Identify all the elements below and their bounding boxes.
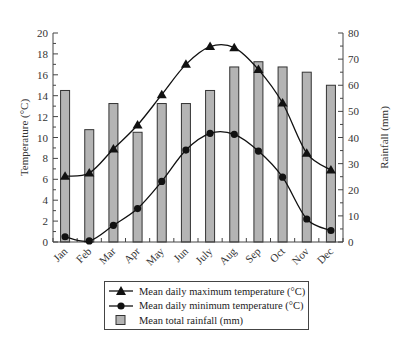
- y-tick-label-right: 60: [348, 79, 360, 91]
- x-tick-label: Sep: [243, 245, 264, 266]
- x-tick-label: Apr: [121, 245, 142, 266]
- circle-marker-icon: [206, 130, 213, 137]
- rainfall-bar: [61, 90, 70, 242]
- y-tick-label-right: 40: [348, 132, 360, 144]
- y-tick-label-left: 0: [43, 236, 49, 248]
- x-tick-label: Jan: [51, 245, 70, 264]
- rainfall-bar: [109, 104, 118, 242]
- x-tick-label: May: [143, 245, 166, 268]
- y-tick-label-left: 8: [43, 152, 49, 164]
- circle-marker-icon: [86, 237, 93, 244]
- legend-label-min-temp: Mean daily minimum temperature (°C): [139, 300, 304, 311]
- y-tick-label-left: 16: [37, 69, 49, 81]
- rainfall-bar: [133, 132, 142, 242]
- chart-legend: Mean daily maximum temperature (°C) Mean…: [104, 281, 309, 330]
- y-tick-label-left: 4: [43, 194, 49, 206]
- min-temp-line: [65, 132, 331, 242]
- rainfall-bar: [206, 90, 215, 242]
- y-tick-label-left: 12: [37, 111, 48, 123]
- y-tick-label-left: 18: [37, 48, 49, 60]
- rainfall-bar: [181, 104, 190, 242]
- y-tick-label-left: 6: [43, 173, 49, 185]
- circle-marker-icon: [109, 300, 133, 312]
- y-axis-title-right: Rainfall (mm): [378, 106, 391, 169]
- max-temp-line: [65, 45, 331, 177]
- y-tick-label-right: 10: [348, 210, 360, 222]
- x-tick-label: Mar: [96, 245, 118, 267]
- triangle-marker-icon: [109, 285, 133, 297]
- y-tick-label-left: 10: [37, 132, 49, 144]
- circle-marker-icon: [303, 215, 310, 222]
- y-tick-label-left: 20: [37, 27, 49, 39]
- x-tick-label: Dec: [314, 245, 335, 266]
- circle-marker-icon: [134, 205, 141, 212]
- circle-marker-icon: [231, 131, 238, 138]
- y-tick-label-left: 14: [37, 90, 49, 102]
- x-tick-label: Feb: [74, 245, 95, 266]
- circle-marker-icon: [158, 178, 165, 185]
- rainfall-bar: [85, 130, 94, 242]
- y-tick-label-right: 20: [348, 184, 360, 196]
- y-tick-label-right: 50: [348, 105, 360, 117]
- x-tick-label: July: [193, 245, 215, 267]
- circle-marker-icon: [61, 233, 68, 240]
- circle-marker-icon: [255, 147, 262, 154]
- y-tick-label-right: 80: [348, 27, 360, 39]
- legend-label-rainfall: Mean total rainfall (mm): [139, 315, 243, 326]
- legend-label-max-temp: Mean daily maximum temperature (°C): [139, 286, 305, 297]
- rainfall-bar: [278, 67, 287, 242]
- rainfall-bar: [230, 67, 239, 242]
- circle-marker-icon: [279, 174, 286, 181]
- y-tick-label-right: 30: [348, 158, 360, 170]
- y-axis-title-left: Temperature (°C): [18, 99, 31, 177]
- y-tick-label-right: 0: [348, 236, 354, 248]
- legend-item-max-temp: Mean daily maximum temperature (°C): [109, 284, 304, 299]
- x-tick-label: Oct: [267, 245, 287, 265]
- circle-marker-icon: [182, 146, 189, 153]
- y-tick-label-right: 70: [348, 53, 360, 65]
- rainfall-bar: [326, 85, 335, 242]
- rainfall-bar: [157, 104, 166, 242]
- bar-swatch-icon: [109, 314, 133, 326]
- x-tick-label: Nov: [289, 245, 311, 267]
- legend-item-min-temp: Mean daily minimum temperature (°C): [109, 299, 304, 314]
- circle-marker-icon: [110, 222, 117, 229]
- legend-item-rainfall: Mean total rainfall (mm): [109, 313, 304, 328]
- x-tick-label: Aug: [217, 245, 239, 267]
- circle-marker-icon: [327, 227, 334, 234]
- x-tick-label: Jun: [171, 245, 191, 265]
- y-tick-label-left: 2: [43, 215, 49, 227]
